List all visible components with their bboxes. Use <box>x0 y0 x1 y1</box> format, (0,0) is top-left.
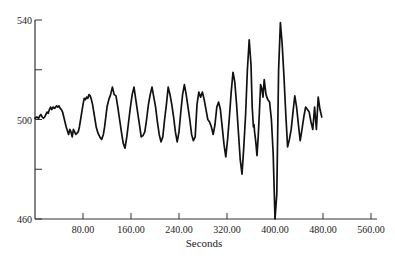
y-ticks: 460500540 <box>17 15 42 225</box>
y-tick-label: 500 <box>17 115 32 126</box>
x-tick-label: 320.00 <box>213 224 241 235</box>
y-tick-label: 540 <box>17 15 32 26</box>
y-tick-label: 460 <box>17 214 32 225</box>
x-tick-label: 80.00 <box>72 224 95 235</box>
x-tick-label: 400.00 <box>261 224 289 235</box>
x-tick-label: 240.00 <box>165 224 193 235</box>
x-tick-label: 560.00 <box>357 224 385 235</box>
series-line-signal <box>35 22 322 219</box>
x-ticks: 80.00160.00240.00320.00400.00480.00560.0… <box>72 213 385 235</box>
x-tick-label: 480.00 <box>309 224 337 235</box>
axes: 460500540 80.00160.00240.00320.00400.004… <box>17 15 385 235</box>
line-chart: 460500540 80.00160.00240.00320.00400.004… <box>0 0 395 263</box>
x-tick-label: 160.00 <box>117 224 145 235</box>
x-axis-label: Seconds <box>186 237 223 249</box>
